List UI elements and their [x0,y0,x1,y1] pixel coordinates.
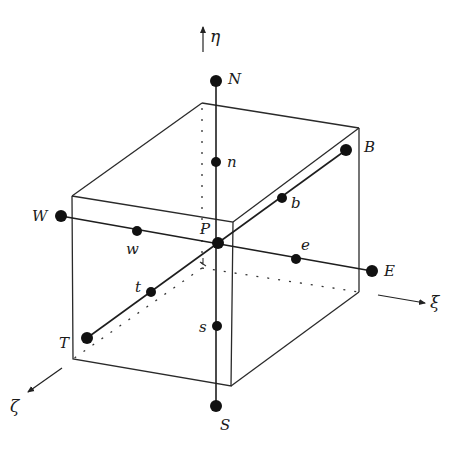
label-S: S [220,418,230,433]
face-b [277,193,287,203]
label-n: n [227,155,237,170]
node-N [210,75,222,87]
label-b: b [291,196,301,211]
node-B [340,144,352,156]
diagram-canvas [0,0,460,458]
node-T [81,332,93,344]
label-t: t [135,280,141,295]
face-e [291,254,301,264]
label-N: N [228,72,241,87]
bottom-right-edge [231,292,359,386]
face-s [212,321,222,331]
node-E [366,265,378,277]
top-back-left-edge [72,103,202,196]
label-w: w [126,242,139,257]
xi-axis-arrow [378,295,425,303]
label-e: e [301,238,310,253]
face-w [132,226,142,236]
right-angle-mark [200,258,206,266]
eta-axis-label: η [210,28,220,45]
node-W [55,210,67,222]
node-S [210,400,222,412]
label-s: s [199,320,207,335]
label-W: W [32,209,47,224]
hidden-bottom-back-edge [202,268,359,292]
xi-axis-label: ξ [430,294,439,311]
face-n [211,157,221,167]
zeta-axis-arrow [28,368,62,392]
label-B: B [364,140,375,155]
zeta-axis-label: ζ [10,398,19,415]
label-E: E [384,264,395,279]
label-T: T [59,336,69,351]
control-volume-diagram: η ξ ζ N P S W E B T n s w e b t [0,0,460,458]
top-back-edge [202,103,359,128]
face-t [146,287,156,297]
label-P: P [200,222,210,237]
node-P [212,237,224,249]
